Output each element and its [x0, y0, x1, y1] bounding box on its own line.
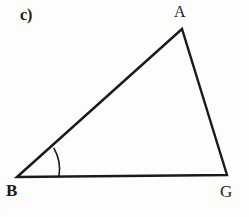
part-label: c) [20, 7, 32, 23]
triangle-diagram-canvas [0, 0, 249, 217]
vertex-label-g: G [220, 183, 232, 200]
geometry-figure: c) A B G [0, 0, 249, 217]
vertex-label-a: A [174, 4, 186, 20]
triangle-outline [17, 29, 227, 177]
angle-arc-at-b [54, 148, 60, 176]
vertex-label-b: B [6, 182, 17, 199]
